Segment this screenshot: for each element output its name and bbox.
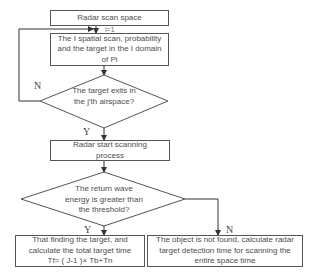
init-label: i=1 (105, 26, 115, 33)
decision1-no-label: N (34, 80, 41, 91)
scan-box-label: The I spatial scan, probability and the … (55, 34, 164, 66)
decision1-text: The target exits in the j'th airspace? (72, 86, 136, 107)
decision1-yes-label: Y (83, 126, 90, 137)
found-box-label: That finding the target, and calculate t… (22, 235, 138, 267)
process-box-label: Radar start scanning process (61, 140, 159, 161)
scan-box: The I spatial scan, probability and the … (50, 33, 169, 66)
not-found-box-label: The object is not found, calculate radar… (154, 235, 296, 267)
decision2-no-label: N (226, 224, 233, 235)
decision2-yes-label: Y (84, 224, 91, 235)
not-found-box: The object is not found, calculate radar… (147, 235, 303, 267)
found-box: That finding the target, and calculate t… (15, 235, 145, 267)
start-box: Radar scan space (50, 10, 169, 26)
start-box-label: Radar scan space (77, 13, 141, 24)
decision2-text: The return wave energy is greater than t… (62, 184, 146, 216)
process-box: Radar start scanning process (50, 140, 170, 161)
